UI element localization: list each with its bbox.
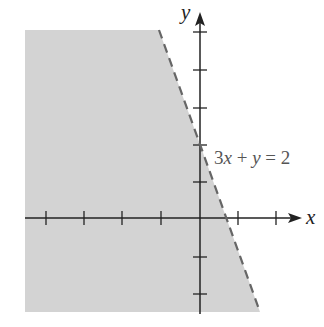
x-axis-label: x [305, 205, 316, 229]
equation-label: 3x + y = 2 [214, 147, 290, 168]
y-axis-label: y [179, 0, 191, 24]
graph: y x 3x + y = 2 [0, 0, 324, 327]
shaded-region [25, 30, 260, 312]
